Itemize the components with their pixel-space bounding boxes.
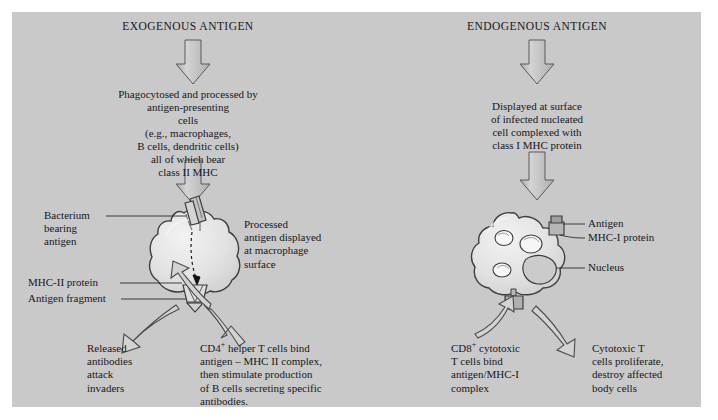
outcome-cd8-cytotoxic-value: CD8+ cytotoxicT cells bindantigen/MHC-Ic… [451,342,520,394]
label-mhc2-protein: MHC-II protein [28,276,98,289]
label-antigen-value: Antigen [588,217,623,229]
outcome-released-antibodies-value: Released antibodies attack invaders [87,342,132,394]
label-nucleus: Nucleus [588,261,624,274]
figure-canvas: EXOGENOUS ANTIGEN Phagocytosed and proce… [0,0,718,420]
label-antigen-fragment-value: Antigen fragment [28,292,106,304]
label-processed-antigen: Processed antigen displayed at macrophag… [244,218,354,271]
outcome-cd4-helper-value: CD4+ helper T cells bindantigen – MHC II… [200,342,322,407]
label-mhc1-protein-value: MHC-I protein [588,231,654,243]
label-processed-antigen-value: Processed antigen displayed at macrophag… [244,218,321,270]
exogenous-step1-value: Phagocytosed and processed by antigen-pr… [118,88,258,178]
label-nucleus-value: Nucleus [588,261,624,273]
endogenous-step1-value: Displayed at surface of infected nucleat… [491,100,583,151]
label-mhc1-protein: MHC-I protein [588,231,654,244]
endogenous-header: ENDOGENOUS ANTIGEN [412,20,662,34]
outcome-released-antibodies: Released antibodies attack invaders [87,342,167,395]
outcome-cd4-helper: CD4+ helper T cells bindantigen – MHC II… [200,342,370,408]
label-antigen-fragment: Antigen fragment [28,292,106,305]
outcome-cytotoxic-proliferate-value: Cytotoxic T cells proliferate, destroy a… [592,342,663,394]
exogenous-header: EXOGENOUS ANTIGEN [63,20,313,34]
outcome-cytotoxic-proliferate: Cytotoxic T cells proliferate, destroy a… [592,342,702,395]
endogenous-step1-text: Displayed at surface of infected nucleat… [457,100,617,152]
exogenous-step1-text: Phagocytosed and processed by antigen-pr… [58,88,318,179]
label-bacterium: Bacterium bearing antigen [44,209,114,249]
label-antigen: Antigen [588,217,623,230]
label-bacterium-value: Bacterium bearing antigen [44,209,90,247]
outcome-cd8-cytotoxic: CD8+ cytotoxicT cells bindantigen/MHC-Ic… [451,342,561,395]
label-mhc2-protein-value: MHC-II protein [28,276,98,288]
